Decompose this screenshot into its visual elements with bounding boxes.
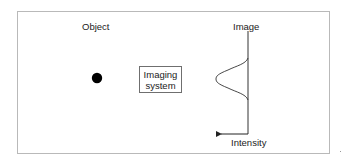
speck [340,151,341,152]
diagram-graphics [0,0,347,161]
object-point-icon [92,73,102,83]
intensity-profile-curve [216,58,248,100]
